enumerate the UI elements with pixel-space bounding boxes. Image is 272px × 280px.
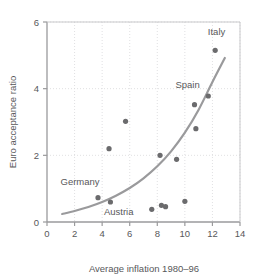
gridlines: [47, 22, 240, 222]
x-tick-label: 0: [44, 228, 49, 239]
point-label-italy: Italy: [208, 26, 226, 37]
data-point: [163, 204, 168, 209]
data-point: [108, 199, 113, 204]
data-point: [157, 153, 162, 158]
x-tick-label: 6: [127, 228, 132, 239]
scatter-chart: 02468101214 0246 ItalySpainGermanyAustri…: [0, 0, 272, 280]
point-annotations: ItalySpainGermanyAustria: [61, 26, 226, 217]
x-tick-label: 10: [180, 228, 191, 239]
data-point: [182, 199, 187, 204]
y-tick-label: 2: [34, 150, 39, 161]
data-point: [149, 207, 154, 212]
data-point: [213, 48, 218, 53]
data-points: [95, 48, 217, 212]
y-axis-title: Euro acceptance ratio: [7, 76, 18, 168]
x-tick-label: 2: [72, 228, 77, 239]
x-tick-label: 12: [207, 228, 218, 239]
data-point: [192, 102, 197, 107]
y-tick-label: 0: [34, 217, 39, 228]
x-tick-label: 14: [235, 228, 246, 239]
data-point: [106, 146, 111, 151]
point-label-austria: Austria: [104, 206, 134, 217]
point-label-germany: Germany: [61, 176, 100, 187]
x-axis-title: Average inflation 1980–96: [89, 263, 199, 274]
plot-frame: [47, 22, 240, 222]
x-tick-label: 4: [99, 228, 104, 239]
data-point: [206, 93, 211, 98]
x-axis-tick-labels: 02468101214: [44, 228, 245, 239]
y-tick-label: 4: [34, 83, 39, 94]
chart-canvas: 02468101214 0246 ItalySpainGermanyAustri…: [0, 0, 272, 280]
trend-curve: [62, 58, 225, 214]
data-point: [174, 157, 179, 162]
point-label-spain: Spain: [175, 79, 199, 90]
y-tick-label: 6: [34, 17, 39, 28]
data-point: [193, 126, 198, 131]
data-point: [95, 195, 100, 200]
data-point: [123, 119, 128, 124]
x-tick-label: 8: [155, 228, 160, 239]
y-axis-tick-labels: 0246: [34, 17, 39, 228]
